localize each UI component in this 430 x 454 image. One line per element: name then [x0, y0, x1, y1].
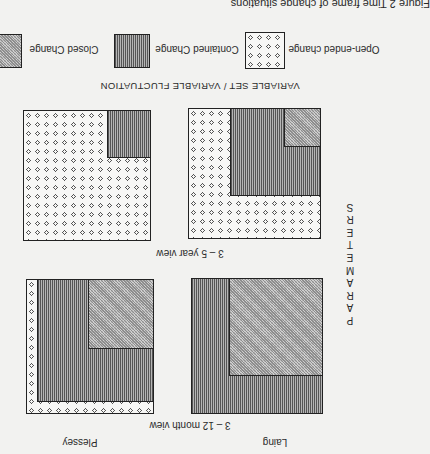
y-axis-letter: E [347, 225, 354, 238]
x-axis-label: VARIABLE SET / VARIABLE FLUCTUATION [100, 80, 300, 92]
region-closed [88, 280, 154, 349]
legend-label-contained: Contained Change [153, 43, 241, 55]
y-axis-letter: M [346, 263, 354, 276]
column-label-plessey: Plessey [50, 436, 110, 448]
region-closed [284, 109, 321, 147]
caption-text: Figure 2 Time frame of change situations [231, 0, 430, 10]
y-axis-letters: PARAMETERS [343, 200, 357, 326]
column-label-laing: Laing [245, 436, 305, 448]
panel-laing-3-5-year [188, 108, 321, 239]
y-axis-letter: T [347, 238, 353, 251]
row-label-text: 3 – 5 year view [156, 248, 223, 259]
y-axis-letter: E [347, 250, 354, 263]
legend-swatch-closed [0, 34, 22, 68]
x-axis-text: VARIABLE SET / VARIABLE FLUCTUATION [100, 81, 299, 92]
legend-label-closed: Closed Change [28, 43, 100, 55]
column-label-text: Plessey [63, 437, 98, 448]
region-contained [230, 109, 321, 196]
y-axis-letter: R [346, 213, 353, 226]
panel-laing-3-12-month [191, 278, 323, 414]
panel-plessey-3-5-year [23, 110, 151, 241]
figure-caption: Figure 2 Time frame of change situations [200, 0, 430, 10]
row-label-3-5-year: 3 – 5 year view [130, 247, 250, 259]
legend-swatch-open [245, 32, 285, 69]
y-axis-label: PARAMETERS PARAMETERS [343, 200, 357, 326]
y-axis-letter: S [347, 200, 354, 213]
y-axis-letter: R [346, 288, 353, 301]
panel-plessey-3-12-month [26, 279, 154, 414]
legend-open-text: Open-ended change [288, 44, 379, 55]
legend-closed-text: Closed Change [30, 44, 99, 55]
region-closed [229, 279, 323, 376]
y-axis-letter: P [347, 313, 354, 326]
column-label-text: Laing [263, 437, 287, 448]
legend-label-open: Open-ended change [288, 43, 380, 55]
row-label-3-12-month: 3 – 12 month view [125, 419, 255, 431]
y-axis-letter: A [347, 301, 354, 314]
y-axis-letter: A [347, 276, 354, 289]
region-contained [37, 280, 154, 402]
legend-contained-text: Contained Change [155, 44, 238, 55]
row-label-text: 3 – 12 month view [149, 420, 230, 431]
legend-swatch-contained [114, 34, 150, 68]
region-contained [107, 111, 151, 158]
